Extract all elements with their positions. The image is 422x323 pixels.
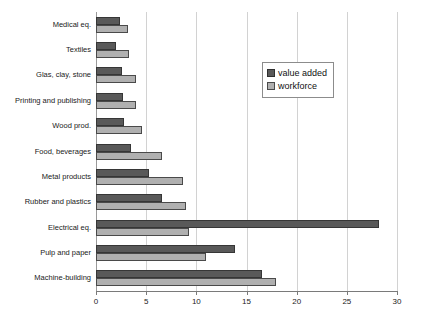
- bar-value-added: [96, 17, 120, 25]
- x-tick: [297, 291, 298, 295]
- x-tick: [96, 291, 97, 295]
- category-label: Glas, clay, stone: [36, 70, 91, 80]
- bar-workforce: [96, 126, 142, 134]
- x-tick: [397, 291, 398, 295]
- x-tick-label: 5: [131, 297, 161, 307]
- gridline: [247, 12, 248, 291]
- bar-value-added: [96, 118, 124, 126]
- bar-workforce: [96, 278, 276, 286]
- bar-value-added: [96, 220, 379, 228]
- bar-value-added: [96, 42, 116, 50]
- gridline: [297, 12, 298, 291]
- x-tick-label: 10: [181, 297, 211, 307]
- category-label: Metal products: [42, 172, 91, 182]
- x-tick: [347, 291, 348, 295]
- bar-workforce: [96, 25, 128, 33]
- category-label: Rubber and plastics: [25, 197, 91, 207]
- legend-item-workforce: workforce: [267, 80, 327, 92]
- x-tick-label: 15: [232, 297, 262, 307]
- bar-workforce: [96, 228, 189, 236]
- gridline: [347, 12, 348, 291]
- category-label: Printing and publishing: [15, 96, 91, 106]
- x-tick: [146, 291, 147, 295]
- gridline: [397, 12, 398, 291]
- bar-value-added: [96, 270, 262, 278]
- category-label: Electrical eq.: [48, 223, 91, 233]
- bar-workforce: [96, 253, 206, 261]
- legend-item-value-added: value added: [267, 67, 327, 79]
- legend-swatch-workforce: [267, 82, 275, 90]
- category-label: Machine-building: [34, 273, 91, 283]
- bar-workforce: [96, 101, 136, 109]
- legend-label-workforce: workforce: [278, 81, 317, 91]
- legend-swatch-value-added: [267, 69, 275, 77]
- category-label: Pulp and paper: [40, 248, 91, 258]
- x-tick: [247, 291, 248, 295]
- bar-workforce: [96, 50, 129, 58]
- x-tick-label: 30: [382, 297, 412, 307]
- bar-value-added: [96, 67, 122, 75]
- bar-value-added: [96, 144, 131, 152]
- legend-label-value-added: value added: [278, 68, 327, 78]
- x-tick-label: 25: [332, 297, 362, 307]
- bar-workforce: [96, 75, 136, 83]
- x-tick-label: 0: [81, 297, 111, 307]
- bar-workforce: [96, 202, 186, 210]
- bar-value-added: [96, 93, 123, 101]
- bar-workforce: [96, 152, 162, 160]
- category-label: Food, beverages: [35, 147, 91, 157]
- bar-workforce: [96, 177, 183, 185]
- category-label: Medical eq.: [53, 20, 91, 30]
- category-label: Wood prod.: [52, 121, 91, 131]
- x-tick-label: 20: [282, 297, 312, 307]
- category-label: Textiles: [66, 45, 91, 55]
- bar-value-added: [96, 169, 149, 177]
- bar-value-added: [96, 194, 162, 202]
- bar-chart: 051015202530 Medical eq.TextilesGlas, cl…: [0, 0, 422, 323]
- x-tick: [196, 291, 197, 295]
- bar-value-added: [96, 245, 235, 253]
- chart-legend: value added workforce: [262, 62, 334, 98]
